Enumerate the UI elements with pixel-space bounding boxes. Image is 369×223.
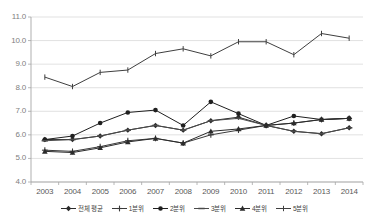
chart-series-3 [43, 100, 352, 142]
series-line [45, 34, 349, 87]
y-axis-tick-label: 10.0 [2, 36, 26, 45]
legend-item-label: 5분위 [293, 203, 308, 213]
x-axis-tick-label: 2004 [58, 187, 88, 196]
series-line [45, 118, 349, 152]
legend-item-label: 4분위 [252, 203, 267, 213]
x-axis-tick-label: 2014 [334, 187, 364, 196]
data-point-marker [181, 123, 186, 128]
legend-item-label: 2분위 [170, 203, 185, 213]
legend-item-label: 3분위 [211, 203, 226, 213]
chart-legend: 전체 평균1분위2분위3분위4분위5분위 [0, 203, 369, 213]
x-axis-tick-label: 2006 [113, 187, 143, 196]
y-axis-tick-label: 7.0 [2, 106, 26, 115]
data-point-marker [209, 100, 214, 105]
line-chart: 11.010.09.08.07.06.05.04.0 2003200420052… [0, 0, 369, 223]
data-point-marker [70, 134, 75, 139]
legend-item-3[interactable]: 2분위 [153, 203, 185, 213]
series-line [45, 117, 349, 139]
x-axis-tick-label: 2011 [251, 187, 281, 196]
x-axis-tick-label: 2007 [141, 187, 171, 196]
data-point-marker [98, 121, 103, 126]
y-axis-tick-label: 4.0 [2, 177, 26, 186]
x-axis-tick-label: 2003 [30, 187, 60, 196]
y-axis-tick-label: 6.0 [2, 130, 26, 139]
legend-marker-icon [61, 204, 76, 213]
legend-marker-icon [276, 204, 291, 213]
x-axis-tick-label: 2010 [224, 187, 254, 196]
series-line [45, 102, 349, 140]
y-axis-tick-label: 9.0 [2, 59, 26, 68]
legend-item-6[interactable]: 5분위 [276, 203, 308, 213]
legend-marker-icon [112, 204, 127, 213]
legend-item-4[interactable]: 3분위 [194, 203, 226, 213]
data-point-marker [153, 108, 158, 113]
chart-series-6 [45, 31, 349, 89]
legend-item-label: 1분위 [129, 203, 144, 213]
legend-marker-icon [235, 204, 250, 213]
data-point-marker [236, 111, 241, 116]
y-axis-tick-label: 5.0 [2, 153, 26, 162]
legend-item-2[interactable]: 1분위 [112, 203, 144, 213]
legend-item-label: 전체 평균 [78, 203, 103, 213]
x-axis-tick-label: 2005 [85, 187, 115, 196]
data-point-marker [126, 110, 131, 115]
x-axis-tick-label: 2012 [279, 187, 309, 196]
legend-item-1[interactable]: 전체 평균 [61, 203, 103, 213]
x-axis-tick-label: 2013 [307, 187, 337, 196]
data-point-marker [158, 206, 163, 211]
y-axis-tick-label: 8.0 [2, 83, 26, 92]
legend-item-5[interactable]: 4분위 [235, 203, 267, 213]
x-axis-tick-label: 2008 [168, 187, 198, 196]
x-axis-tick-label: 2009 [196, 187, 226, 196]
data-point-marker [66, 205, 71, 210]
legend-marker-icon [153, 204, 168, 213]
legend-marker-icon [194, 204, 209, 213]
y-axis-tick-label: 11.0 [2, 12, 26, 21]
data-point-marker [292, 114, 297, 119]
